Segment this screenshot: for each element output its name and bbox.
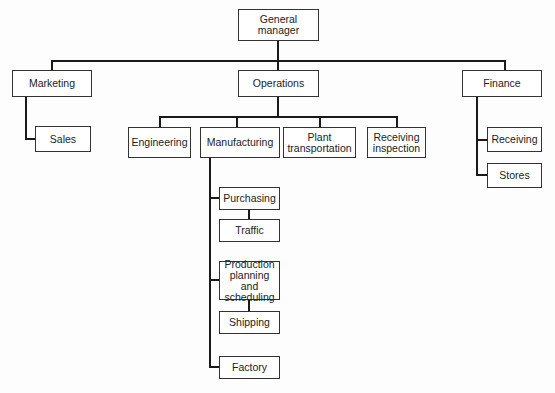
connector-manufacturing-up bbox=[236, 116, 238, 127]
node-marketing: Marketing bbox=[12, 70, 92, 97]
node-stores: Stores bbox=[487, 163, 542, 188]
node-label: Marketing bbox=[29, 78, 75, 89]
node-manufacturing: Manufacturing bbox=[200, 127, 280, 158]
node-label: Receiving inspection bbox=[373, 132, 420, 154]
node-shipping: Shipping bbox=[219, 311, 280, 334]
connector-operations-bus bbox=[159, 116, 398, 118]
node-label: Operations bbox=[253, 78, 304, 89]
node-label: Sales bbox=[50, 134, 76, 145]
node-general-manager: General manager bbox=[238, 9, 319, 41]
connector-plant-up bbox=[319, 116, 321, 127]
connector-finance-stores bbox=[476, 174, 487, 176]
node-label: Engineering bbox=[131, 137, 187, 148]
node-label: Shipping bbox=[229, 317, 270, 328]
connector-finance-down bbox=[476, 96, 478, 175]
connector-purchasing-traffic bbox=[248, 209, 250, 219]
connector-marketing-sales-v bbox=[25, 96, 27, 140]
connector-gm-down bbox=[277, 40, 279, 71]
node-label: Manufacturing bbox=[207, 137, 274, 148]
node-receiving-inspection: Receiving inspection bbox=[367, 127, 426, 158]
connector-receiving-insp-up bbox=[396, 116, 398, 127]
node-purchasing: Purchasing bbox=[219, 187, 280, 210]
connector-manufacturing-down bbox=[209, 157, 211, 368]
node-factory: Factory bbox=[219, 356, 280, 379]
node-finance: Finance bbox=[462, 70, 542, 97]
connector-finance-receiving bbox=[476, 139, 487, 141]
node-sales: Sales bbox=[35, 126, 91, 152]
node-traffic: Traffic bbox=[219, 219, 280, 242]
node-engineering: Engineering bbox=[128, 127, 191, 158]
connector-operations-down bbox=[277, 96, 279, 117]
node-label: Purchasing bbox=[223, 193, 276, 204]
connector-engineering-up bbox=[159, 116, 161, 127]
node-label: Plant transportation bbox=[287, 132, 351, 154]
node-label: General manager bbox=[258, 14, 299, 36]
node-label: Traffic bbox=[235, 225, 264, 236]
node-receiving: Receiving bbox=[487, 127, 542, 152]
node-label: Receiving bbox=[491, 134, 537, 145]
node-label: Finance bbox=[483, 78, 520, 89]
node-plant-transportation: Plant transportation bbox=[283, 127, 356, 158]
node-label: Production planning and scheduling bbox=[222, 259, 277, 303]
node-label: Factory bbox=[232, 362, 267, 373]
connector-top-bus bbox=[51, 60, 506, 62]
node-operations: Operations bbox=[238, 70, 319, 97]
node-production-planning: Production planning and scheduling bbox=[219, 261, 280, 300]
node-label: Stores bbox=[499, 170, 529, 181]
org-chart: General manager Marketing Operations Fin… bbox=[0, 0, 555, 393]
